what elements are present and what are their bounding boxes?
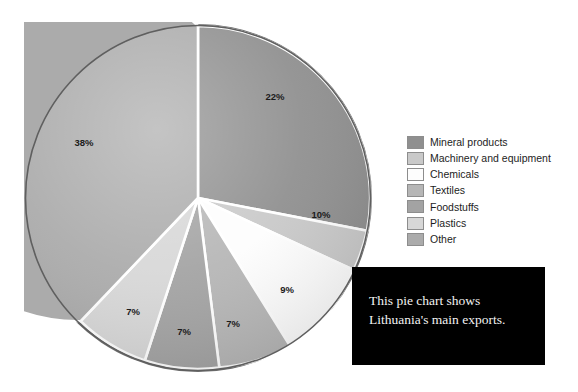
legend-swatch-icon (407, 136, 424, 149)
legend-swatch-icon (407, 200, 424, 213)
legend-item-machinery-and-equipment: Machinery and equipment (407, 150, 575, 166)
legend-label: Plastics (430, 218, 466, 229)
pie-svg: 22% 10% 9% 7% 7% 7% 38% (24, 22, 376, 374)
pie-slice-mineral-products (198, 26, 370, 231)
legend-label: Mineral products (430, 137, 508, 148)
legend-item-textiles: Textiles (407, 183, 575, 199)
caption-text: This pie chart shows Lithuania's main ex… (369, 291, 539, 329)
pie-label-other: 38% (74, 137, 94, 148)
pie-label-mineral-products: 22% (265, 91, 285, 102)
pie-label-foodstuffs: 7% (177, 326, 191, 337)
legend-item-chemicals: Chemicals (407, 166, 575, 182)
legend-swatch-icon (407, 152, 424, 165)
chart-legend: Mineral products Machinery and equipment… (407, 134, 575, 247)
legend-label: Other (430, 234, 456, 245)
legend-label: Machinery and equipment (430, 153, 551, 164)
caption-panel: This pie chart shows Lithuania's main ex… (352, 267, 545, 365)
legend-swatch-icon (407, 233, 424, 246)
legend-label: Textiles (430, 185, 465, 196)
legend-swatch-icon (407, 217, 424, 230)
legend-item-mineral-products: Mineral products (407, 134, 575, 150)
legend-label: Chemicals (430, 169, 479, 180)
pie-label-textiles: 7% (226, 318, 240, 329)
legend-item-foodstuffs: Foodstuffs (407, 199, 575, 215)
legend-item-plastics: Plastics (407, 215, 575, 231)
legend-label: Foodstuffs (430, 202, 479, 213)
legend-swatch-icon (407, 184, 424, 197)
pie-chart-figure: 22% 10% 9% 7% 7% 7% 38% Mineral products… (0, 0, 578, 392)
legend-item-other: Other (407, 231, 575, 247)
pie-label-chemicals: 9% (280, 284, 294, 295)
legend-swatch-icon (407, 168, 424, 181)
pie-label-plastics: 7% (126, 306, 140, 317)
pie-chart-graphic: 22% 10% 9% 7% 7% 7% 38% (24, 22, 376, 374)
pie-label-machinery-and-equipment: 10% (311, 209, 331, 220)
